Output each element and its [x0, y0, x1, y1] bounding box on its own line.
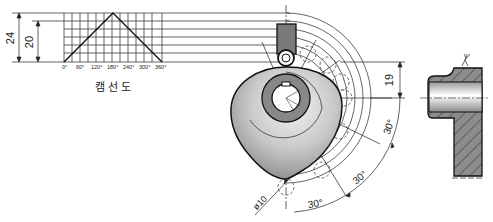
x-tick-120: 120° — [91, 64, 102, 70]
angle-label-1: 30° — [381, 118, 397, 136]
displacement-curve — [64, 13, 162, 62]
surface-mark: y — [464, 52, 468, 60]
x-tick-360: 360° — [155, 64, 166, 70]
keyway — [282, 82, 290, 86]
dim-base-19: 19 — [383, 74, 395, 86]
x-tick-0: 0° — [62, 64, 67, 70]
section-bore — [429, 82, 482, 112]
section-view: y — [420, 52, 488, 178]
x-tick-60: 60° — [76, 64, 84, 70]
x-tick-240: 240° — [123, 64, 134, 70]
roller-diameter: ø10 — [251, 194, 269, 212]
dim-rise: 20 — [23, 36, 35, 48]
x-tick-180: 180° — [107, 64, 118, 70]
cam-diagram: 24 20 0° 60° 120° 180° 240° 300° 360° 캠선… — [0, 0, 493, 222]
angle-label-2: 30° — [350, 168, 369, 186]
graph-caption: 캠선도 — [95, 81, 134, 93]
dim-total: 24 — [4, 32, 16, 44]
x-tick-300: 300° — [139, 64, 150, 70]
angle-label-3: 30° — [307, 197, 324, 210]
